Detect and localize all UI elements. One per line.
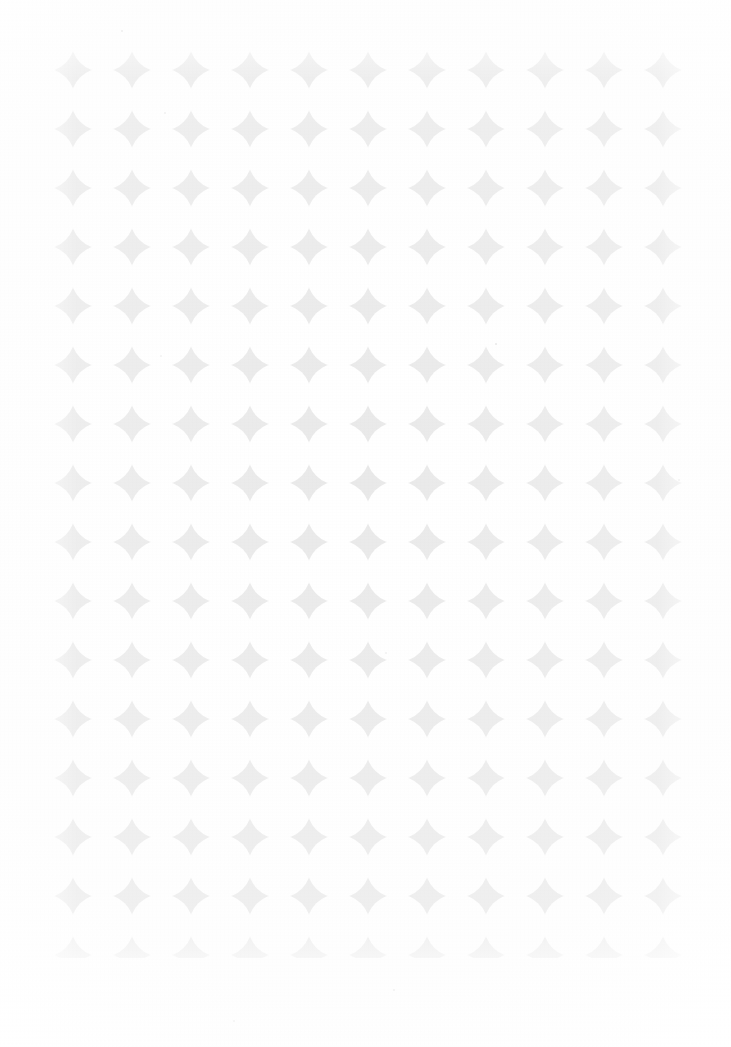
pattern-field — [45, 42, 690, 958]
dot-grid-pattern — [0, 0, 731, 1047]
page-canvas — [0, 0, 731, 1047]
